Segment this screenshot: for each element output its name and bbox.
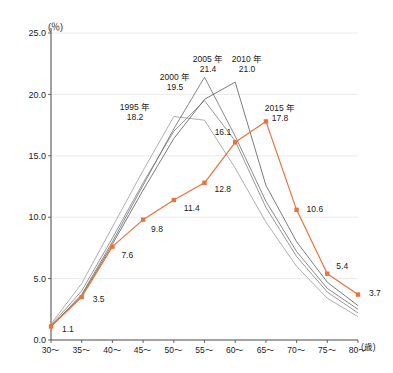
x-axis-tick-label: 75～ (318, 345, 336, 355)
line-chart-plot: 0.05.010.015.020.025.0 30～35～40～45～50～55… (0, 0, 393, 373)
x-axis-tick-labels: 30～35～40～45～50～55～60～65～70～75～80～ (42, 340, 367, 355)
x-axis-tick-label: 65～ (257, 345, 275, 355)
series-annotation-year: 2005 年 (193, 54, 223, 64)
data-point-marker (202, 181, 206, 185)
y-axis-tick-label: 5.0 (33, 274, 46, 284)
x-axis-tick-label: 70～ (287, 345, 305, 355)
series-annotation-value: 21.0 (239, 64, 256, 74)
series-annotation-year: 2015 年 (265, 103, 295, 113)
data-point-marker (80, 295, 84, 299)
data-point-marker (141, 217, 145, 221)
y-axis-tick-label: 25.0 (28, 28, 46, 38)
data-point-value-label: 16.1 (215, 127, 232, 137)
x-axis-tick-label: 40～ (103, 345, 121, 355)
data-point-value-label: 12.8 (215, 184, 232, 194)
chart-container: (％) 0.05.010.015.020.025.0 30～35～40～45～5… (0, 0, 393, 373)
data-point-marker (110, 244, 114, 248)
series-annotation-year: 2000 年 (160, 72, 190, 82)
x-axis-tick-label: 55～ (195, 345, 213, 355)
series-annotation-value: 21.4 (200, 64, 217, 74)
series-annotation-value: 19.5 (167, 82, 184, 92)
data-point-value-label: 7.6 (121, 250, 133, 260)
data-point-marker (49, 324, 53, 328)
x-axis-tick-label: 50～ (165, 345, 183, 355)
data-point-marker (356, 292, 360, 296)
data-point-value-label: 11.4 (184, 203, 200, 213)
data-point-marker (172, 198, 176, 202)
data-point-value-label: 3.7 (369, 288, 381, 298)
data-point-value-label: 3.5 (93, 294, 105, 304)
x-axis-tick-label: 60～ (226, 345, 244, 355)
series-annotation-year: 1995 年 (120, 102, 150, 112)
series-annotation-year: 2010 年 (232, 54, 262, 64)
series-peak-annotations: 1995 年18.22000 年19.52005 年21.42010 年21.0… (120, 54, 295, 123)
series-lines (51, 77, 358, 326)
y-axis-tick-label: 20.0 (28, 90, 46, 100)
series-annotation-value: 18.2 (127, 112, 144, 122)
x-axis-tick-label: 45～ (134, 345, 152, 355)
x-axis-unit-label: (歳) (361, 342, 376, 352)
data-point-marker (325, 271, 329, 275)
x-axis-tick-label: 30～ (42, 345, 60, 355)
x-axis-tick-label: 35～ (72, 345, 90, 355)
data-point-marker (294, 208, 298, 212)
data-point-value-label: 10.6 (307, 204, 324, 214)
y-axis-tick-labels: 0.05.010.015.020.025.0 (28, 28, 51, 345)
data-point-value-label: 9.8 (151, 224, 163, 234)
data-point-value-label: 1.1 (62, 324, 74, 334)
series-annotation-value: 17.8 (272, 113, 289, 123)
data-point-marker (264, 119, 268, 123)
y-axis-tick-label: 10.0 (28, 212, 46, 222)
data-point-value-label: 5.4 (336, 261, 348, 271)
data-point-marker (233, 140, 237, 144)
y-axis-tick-label: 15.0 (28, 151, 46, 161)
series-line (51, 117, 358, 325)
series-line (51, 77, 358, 326)
